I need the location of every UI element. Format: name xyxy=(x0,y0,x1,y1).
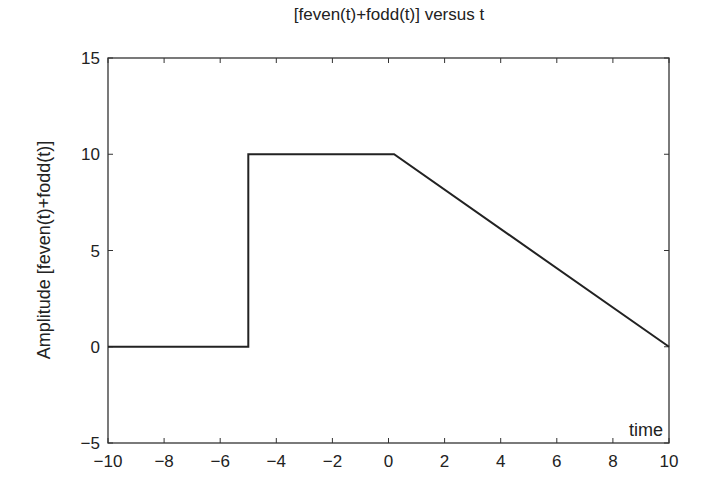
y-tick-label: 10 xyxy=(81,145,100,164)
y-tick-label: −5 xyxy=(81,434,100,453)
x-tick-label: 6 xyxy=(552,452,561,471)
chart: [feven(t)+fodd(t)] versus t −5051015 −10… xyxy=(0,0,702,497)
x-tick-label: −6 xyxy=(211,452,230,471)
data-line xyxy=(108,154,669,346)
x-tick-label: 0 xyxy=(384,452,393,471)
y-tick-label: 5 xyxy=(91,242,100,261)
x-tick-label: 4 xyxy=(496,452,505,471)
y-tick-label: 0 xyxy=(91,338,100,357)
x-tick-label: 10 xyxy=(660,452,679,471)
y-tick-label: 15 xyxy=(81,49,100,68)
x-axis: −10−8−6−4−20246810 xyxy=(94,58,679,471)
y-axis-label: Amplitude [feven(t)+fodd(t)] xyxy=(34,141,54,360)
y-axis: −5051015 xyxy=(81,49,669,453)
chart-title: [feven(t)+fodd(t)] versus t xyxy=(294,5,485,24)
plot-frame xyxy=(108,58,669,443)
x-axis-label: time xyxy=(629,420,663,440)
x-tick-label: −2 xyxy=(323,452,342,471)
x-tick-label: −10 xyxy=(94,452,123,471)
x-tick-label: −4 xyxy=(267,452,286,471)
x-tick-label: 8 xyxy=(608,452,617,471)
x-tick-label: 2 xyxy=(440,452,449,471)
x-tick-label: −8 xyxy=(154,452,173,471)
